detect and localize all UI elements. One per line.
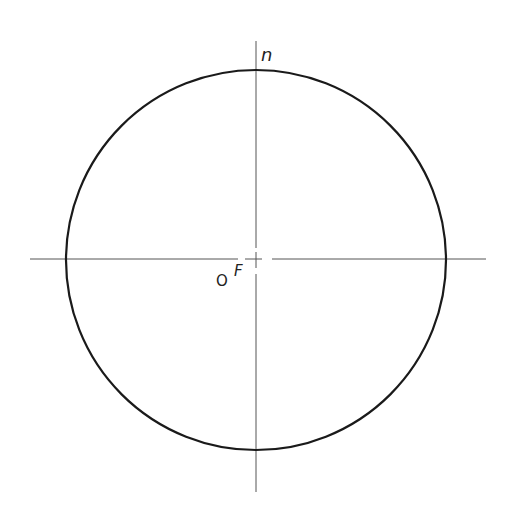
label-f: F (234, 262, 243, 280)
label-o: O (216, 272, 228, 290)
label-n: n (261, 44, 272, 65)
diagram-canvas (0, 0, 508, 518)
